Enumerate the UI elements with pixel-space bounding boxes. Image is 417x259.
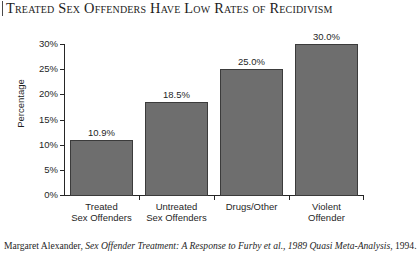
cat-line-1: Violent — [289, 201, 364, 212]
cat-line-2: Sex Offenders — [139, 212, 214, 223]
bar-drugs-other[interactable] — [220, 69, 283, 196]
bar-violent-offender[interactable] — [295, 44, 358, 196]
cat-line-2: Offender — [289, 212, 364, 223]
title-left-rule — [2, 1, 3, 16]
bar-value-label: 18.5% — [145, 89, 208, 100]
source-citation: Margaret Alexander, Sex Offender Treatme… — [4, 240, 369, 252]
bar-untreated-sex-offenders[interactable] — [145, 102, 208, 196]
x-tick-label-treated-sex-offenders: Treated Sex Offenders — [64, 201, 139, 223]
bar-value-label: 10.9% — [70, 127, 133, 138]
x-tick-label-drugs-other: Drugs/Other — [214, 201, 289, 212]
title-bar: Treated Sex Offenders Have Low Rates of … — [0, 0, 371, 22]
cat-line-1: Treated — [64, 201, 139, 212]
citation-work: Sex Offender Treatment: A Response to Fu… — [85, 240, 390, 251]
bar-series: 10.9% Treated Sex Offenders 18.5% Untrea… — [0, 24, 371, 229]
cat-line-2: Sex Offenders — [64, 212, 139, 223]
x-tick-label-violent-offender: Violent Offender — [289, 201, 364, 223]
citation-author: Margaret Alexander, — [4, 240, 83, 251]
bar-value-label: 25.0% — [220, 56, 283, 67]
cat-line-1: Untreated — [139, 201, 214, 212]
bar-treated-sex-offenders[interactable] — [70, 140, 133, 196]
citation-year: , 1994. — [390, 240, 416, 251]
bar-value-label: 30.0% — [295, 31, 358, 42]
chart-title: Treated Sex Offenders Have Low Rates of … — [6, 0, 333, 17]
cat-line-1: Drugs/Other — [214, 201, 289, 212]
x-tick-label-untreated-sex-offenders: Untreated Sex Offenders — [139, 201, 214, 223]
chart-plot-area: Percentage 30% 25% 20% 15% 10% 5% 0% 10.… — [0, 24, 371, 229]
